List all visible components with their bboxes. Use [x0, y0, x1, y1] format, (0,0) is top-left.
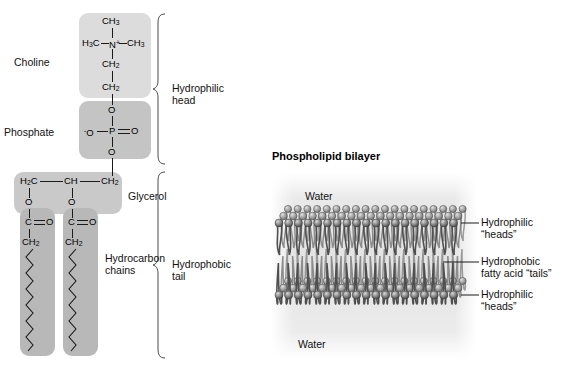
- lipid-head: [435, 212, 443, 220]
- bond-glycerol-2: [80, 181, 100, 182]
- lipid-head: [314, 219, 322, 227]
- lipid-head: [275, 219, 283, 227]
- atom-glycerol-ch: CH: [64, 176, 78, 186]
- lipid-head: [299, 284, 307, 292]
- lipid-head: [421, 291, 429, 299]
- lipid-head: [367, 212, 375, 220]
- label-glycerol: Glycerol: [128, 190, 167, 203]
- bond-p-o-double-b: [118, 133, 130, 134]
- lipid-head: [319, 284, 327, 292]
- lipid-head: [348, 212, 356, 220]
- lipid-head: [382, 291, 390, 299]
- lipid-head: [396, 284, 404, 292]
- lipid-head: [324, 291, 332, 299]
- lipid-head: [454, 284, 462, 292]
- label-hydrocarbon-chains-line2: chains: [105, 264, 135, 277]
- lipid-head: [362, 291, 370, 299]
- bond-p-o-double-a: [118, 129, 130, 130]
- lipid-head: [425, 212, 433, 220]
- lipid-head: [411, 219, 419, 227]
- bond-c-o-double-right-a: [77, 220, 88, 221]
- atom-choline-ch2-a: CH2: [102, 59, 120, 71]
- atom-glycerol-h2c: H2C: [20, 176, 38, 188]
- lipid-head: [396, 212, 404, 220]
- atom-phosphate-phosphorus: P: [109, 126, 115, 136]
- lipid-head: [333, 219, 341, 227]
- hydrocarbon-chain-box-left: [20, 208, 55, 356]
- lipid-head: [449, 205, 456, 212]
- lipid-head: [416, 284, 424, 292]
- lipid-head: [319, 212, 327, 220]
- bond-h3c-n: [101, 43, 109, 44]
- lipid-head: [289, 212, 297, 220]
- lipid-head: [411, 205, 418, 212]
- atom-choline-ch2-b: CH2: [102, 82, 120, 94]
- bracket-hydrophilic-head: [153, 14, 165, 164]
- lipid-head: [459, 205, 466, 212]
- atom-glycerol-o-right: O: [68, 197, 75, 207]
- lipid-head: [333, 291, 341, 299]
- lipid-head: [338, 284, 346, 292]
- lipid-head: [372, 291, 380, 299]
- bond-c-o-double-left-a: [34, 220, 45, 221]
- lipid-head: [406, 212, 414, 220]
- lipid-head: [401, 291, 409, 299]
- lipid-head: [304, 219, 312, 227]
- lipid-head: [420, 205, 427, 212]
- lipid-head: [459, 277, 466, 284]
- lipid-head: [391, 219, 399, 227]
- lipid-head: [343, 291, 351, 299]
- lipid-head: [391, 205, 398, 212]
- lipid-head: [294, 291, 302, 299]
- lipid-head: [440, 291, 448, 299]
- lipid-head: [440, 219, 448, 227]
- lipid-head: [372, 219, 380, 227]
- atom-choline-h3c-left: H3C: [82, 38, 100, 50]
- bond-c-o-double-left-b: [34, 224, 45, 225]
- lipid-head: [454, 212, 462, 220]
- bond-ominus-p: [97, 131, 108, 132]
- atom-phosphate-o-bottom: O: [108, 147, 115, 157]
- callout-hydrophilic-heads-top-line2: “heads”: [481, 228, 517, 241]
- atom-ester-o-left: O: [46, 217, 53, 227]
- label-hydrophobic-tail-line1: Hydrophobic: [172, 258, 231, 271]
- callout-hydrophilic-heads-bottom-line1: Hydrophilic: [481, 288, 533, 301]
- atom-tail-ch2-right: CH2: [65, 237, 83, 249]
- lipid-head: [377, 284, 385, 292]
- lipid-head: [294, 205, 301, 212]
- lipid-head: [299, 212, 307, 220]
- lipid-head: [343, 205, 350, 212]
- atom-glycerol-o-left: O: [25, 197, 32, 207]
- label-hydrophilic-head-line1: Hydrophilic: [172, 82, 224, 95]
- lipid-head: [280, 212, 288, 220]
- atom-tail-ch2-left: CH2: [22, 237, 40, 249]
- lipid-head: [338, 212, 346, 220]
- lipid-head: [411, 291, 419, 299]
- lipid-head: [324, 219, 332, 227]
- callout-hydrophilic-heads-top-line1: Hydrophilic: [481, 216, 533, 229]
- label-hydrophilic-head-line2: head: [172, 94, 195, 107]
- lipid-head: [382, 219, 390, 227]
- lipid-head: [284, 205, 291, 212]
- lipid-head: [314, 291, 322, 299]
- lipid-head: [440, 205, 447, 212]
- lipid-head: [343, 219, 351, 227]
- lipid-head: [275, 291, 283, 299]
- lipid-head: [416, 212, 424, 220]
- lipid-head: [280, 284, 288, 292]
- atom-ester-c-right: C: [68, 217, 75, 227]
- atom-phosphate-o-minus: -O: [84, 126, 94, 138]
- hydrocarbon-chain-box-right: [63, 208, 98, 356]
- lipid-head: [314, 205, 321, 212]
- lipid-head: [430, 291, 438, 299]
- bond-c-o-double-right-b: [77, 224, 88, 225]
- lipid-head: [372, 205, 379, 212]
- lipid-head: [304, 205, 311, 212]
- lipid-head: [323, 205, 330, 212]
- lipid-head: [386, 212, 394, 220]
- label-water-bottom: Water: [298, 338, 326, 350]
- bond-choline-ch3-n: [112, 28, 113, 38]
- lipid-head: [352, 205, 359, 212]
- callout-hydrophobic-tails-line1: Hydrophobic: [481, 255, 540, 268]
- lipid-head: [401, 205, 408, 212]
